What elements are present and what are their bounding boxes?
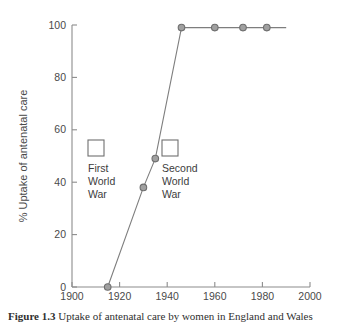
figure-caption-text: Uptake of antenatal care by women in Eng… (58, 310, 313, 322)
data-point-1981 (264, 24, 271, 31)
y-tick-label-80: 80 (54, 71, 66, 83)
chart-plot: 0 20 40 60 80 100 1900 1920 1940 1960 19… (0, 0, 345, 305)
data-point-1915 (104, 284, 111, 291)
x-tick-label-1960: 1960 (203, 290, 227, 302)
x-tick-label-1920: 1920 (108, 290, 132, 302)
series-markers (104, 24, 270, 290)
y-tick-label-100: 100 (48, 19, 66, 31)
data-point-1930 (140, 184, 147, 191)
annotation-first-world-war: First World War (88, 140, 115, 200)
data-point-1971 (240, 24, 247, 31)
annotation-second-world-war: Second World War (162, 140, 198, 200)
second-world-war-line-3: War (162, 188, 181, 200)
second-world-war-line-1: Second (162, 162, 198, 174)
x-tick-label-1900: 1900 (60, 290, 84, 302)
data-point-1946 (178, 24, 185, 31)
first-world-war-line-1: First (88, 162, 108, 174)
figure-caption-label: Figure 1.3 (8, 310, 55, 322)
figure-caption: Figure 1.3 Uptake of antenatal care by w… (8, 310, 340, 324)
figure-container: 0 20 40 60 80 100 1900 1920 1940 1960 19… (0, 0, 345, 333)
first-world-war-line-2: World (88, 175, 115, 187)
first-world-war-line-3: War (88, 188, 107, 200)
y-tick-label-60: 60 (54, 123, 66, 135)
x-tick-label-2000: 2000 (298, 290, 322, 302)
y-axis-title: % Uptake of antenatal care (17, 90, 29, 223)
y-tick-label-40: 40 (54, 176, 66, 188)
y-axis-ticks (72, 25, 77, 287)
second-world-war-line-2: World (162, 175, 189, 187)
second-world-war-box-icon (162, 140, 178, 156)
data-point-1935 (152, 155, 159, 162)
data-point-1959 (212, 24, 219, 31)
series-line-antenatal-uptake (108, 28, 287, 287)
x-tick-label-1980: 1980 (251, 290, 275, 302)
first-world-war-box-icon (88, 140, 104, 156)
y-tick-label-20: 20 (54, 228, 66, 240)
x-tick-label-1940: 1940 (156, 290, 180, 302)
